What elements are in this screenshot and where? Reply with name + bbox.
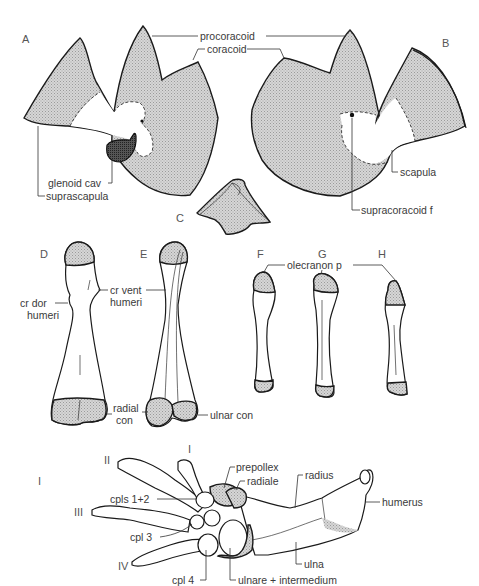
digit-label-ii: II [104,454,110,466]
panel-label-a: A [22,33,30,45]
panel-a-girdle: A [22,26,218,196]
label-prepollex: prepollex [236,461,279,473]
panel-label-e: E [140,248,147,260]
humerus-head [360,470,370,484]
panel-i-manus: I I II III IV prepollex radiale radius [38,443,423,586]
label-radiale: radiale [247,475,279,487]
digit-label-i: I [188,443,191,455]
label-cr-dor-2: humeri [27,309,59,321]
panel-label-h: H [378,248,386,260]
anatomy-figure: A B procoracoid coracoid glenoid cav sup… [0,0,479,586]
panel-label-f: F [257,248,264,260]
digit-iv [132,539,207,566]
panel-label-b: B [442,37,449,49]
label-cpls-1-2: cpls 1+2 [110,493,150,505]
panel-d-humerus: D cr dor humeri [20,242,107,425]
cpl-3-bone [190,515,204,529]
cpls-1-2-bone [196,492,214,508]
label-supracoracoid-f: supracoracoid f [361,204,433,216]
label-cpl-4: cpl 4 [172,574,194,586]
label-cr-vent-2: humeri [110,296,142,308]
label-glenoid-cav: glenoid cav [48,177,102,189]
cpl-4-bone [198,534,218,556]
digit-label-iv: IV [118,560,129,572]
digit-label-iii: III [74,506,83,518]
panel-f-ulna: F [253,248,275,392]
label-cr-dor-1: cr dor [20,297,47,309]
label-cpl-3: cpl 3 [130,531,152,543]
label-ulnare-intermedium: ulnare + intermedium [238,574,337,586]
label-coracoid: coracoid [207,43,247,55]
label-humerus: humerus [382,496,423,508]
label-radial-1: radial [113,402,139,414]
label-radial-2: con [116,414,133,426]
panel-e-humerus: E cr vent humeri radial con ulnar con [98,242,253,427]
panel-h-ulna: H [378,248,407,395]
panel-label-c: C [176,212,184,224]
digit-iii [92,506,190,532]
label-cr-vent-1: cr vent [110,284,142,296]
label-ulnar-con: ulnar con [210,409,253,421]
figure-svg: A B procoracoid coracoid glenoid cav sup… [0,0,479,586]
panel-label-i: I [38,475,41,487]
label-olecranon-p: olecranon p [287,259,342,271]
label-radius: radius [305,469,334,481]
label-procoracoid: procoracoid [200,30,255,42]
label-suprascapula: suprascapula [46,190,109,202]
label-ulna: ulna [304,558,324,570]
panel-label-d: D [40,248,48,260]
label-scapula: scapula [400,166,436,178]
